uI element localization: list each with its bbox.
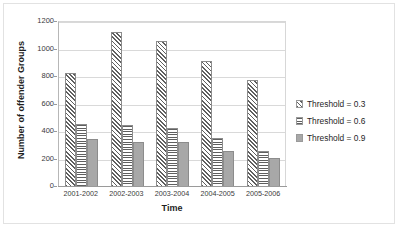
legend-swatch-icon-0 bbox=[296, 100, 303, 108]
x-axis-tick-label-2: 2003-2004 bbox=[149, 189, 195, 203]
legend-item-0[interactable]: Threshold = 0.3 bbox=[296, 95, 396, 112]
bar-group-2001-2002 bbox=[59, 21, 104, 186]
y-axis-tick-mark bbox=[54, 49, 57, 50]
bar-2003-2004-threshold-0-6 bbox=[167, 128, 178, 186]
bar-2004-2005-threshold-0-6 bbox=[212, 138, 223, 186]
bar-2002-2003-threshold-0-9 bbox=[133, 142, 144, 186]
y-axis-tick-label: 1000 bbox=[2, 45, 54, 53]
y-axis-ticks: 020040060080010001200 bbox=[0, 0, 54, 231]
legend-swatch-icon-2 bbox=[296, 134, 303, 142]
bars-layer bbox=[59, 21, 286, 186]
bar-2002-2003-threshold-0-3 bbox=[111, 32, 122, 186]
legend-item-label: Threshold = 0.9 bbox=[307, 133, 365, 143]
y-axis-tick-mark bbox=[54, 159, 57, 160]
bar-2004-2005-threshold-0-3 bbox=[201, 61, 212, 186]
y-axis-tick-mark bbox=[54, 21, 57, 22]
bar-2004-2005-threshold-0-9 bbox=[223, 151, 234, 186]
x-axis-tick-label-1: 2002-2003 bbox=[104, 189, 150, 203]
bar-group-2004-2005 bbox=[195, 21, 240, 186]
bar-group-2002-2003 bbox=[104, 21, 149, 186]
bar-2005-2006-threshold-0-6 bbox=[258, 151, 269, 186]
bar-chart-figure: 020040060080010001200 2001-20022002-2003… bbox=[0, 0, 402, 231]
bar-2005-2006-threshold-0-3 bbox=[247, 80, 258, 186]
y-axis-tick-label: 400 bbox=[2, 127, 54, 135]
bar-2001-2002-threshold-0-6 bbox=[76, 124, 87, 186]
y-axis-title: Number of offender Groups bbox=[16, 25, 26, 175]
y-axis-tick-mark bbox=[54, 76, 57, 77]
x-axis-tick-label-0: 2001-2002 bbox=[58, 189, 104, 203]
x-axis-title: Time bbox=[58, 203, 286, 213]
x-axis-line bbox=[58, 186, 287, 187]
x-axis-ticks: 2001-20022002-20032003-20042004-20052005… bbox=[58, 189, 286, 203]
y-axis-tick-label: 800 bbox=[2, 72, 54, 80]
y-axis-tick-mark bbox=[54, 104, 57, 105]
chart-legend: Threshold = 0.3Threshold = 0.6Threshold … bbox=[296, 95, 396, 146]
x-axis-tick-label-3: 2004-2005 bbox=[195, 189, 241, 203]
bar-2002-2003-threshold-0-6 bbox=[122, 125, 133, 186]
x-axis-tick-label-4: 2005-2006 bbox=[240, 189, 286, 203]
legend-item-label: Threshold = 0.6 bbox=[307, 116, 365, 126]
y-axis-tick-label: 600 bbox=[2, 100, 54, 108]
bar-2001-2002-threshold-0-3 bbox=[65, 73, 76, 186]
legend-item-label: Threshold = 0.3 bbox=[307, 99, 365, 109]
y-axis-tick-mark bbox=[54, 131, 57, 132]
y-axis-tick-label: 200 bbox=[2, 155, 54, 163]
legend-swatch-icon-1 bbox=[296, 117, 303, 125]
bar-group-2005-2006 bbox=[241, 21, 286, 186]
y-axis-tick-label: 1200 bbox=[2, 17, 54, 25]
y-axis-tick-label: 0 bbox=[2, 182, 54, 190]
legend-item-1[interactable]: Threshold = 0.6 bbox=[296, 112, 396, 129]
bar-2005-2006-threshold-0-9 bbox=[269, 158, 280, 186]
legend-item-2[interactable]: Threshold = 0.9 bbox=[296, 129, 396, 146]
bar-group-2003-2004 bbox=[150, 21, 195, 186]
y-axis-tick-mark bbox=[54, 186, 57, 187]
bar-2003-2004-threshold-0-3 bbox=[156, 41, 167, 186]
bar-2001-2002-threshold-0-9 bbox=[87, 139, 98, 186]
bar-2003-2004-threshold-0-9 bbox=[178, 142, 189, 186]
